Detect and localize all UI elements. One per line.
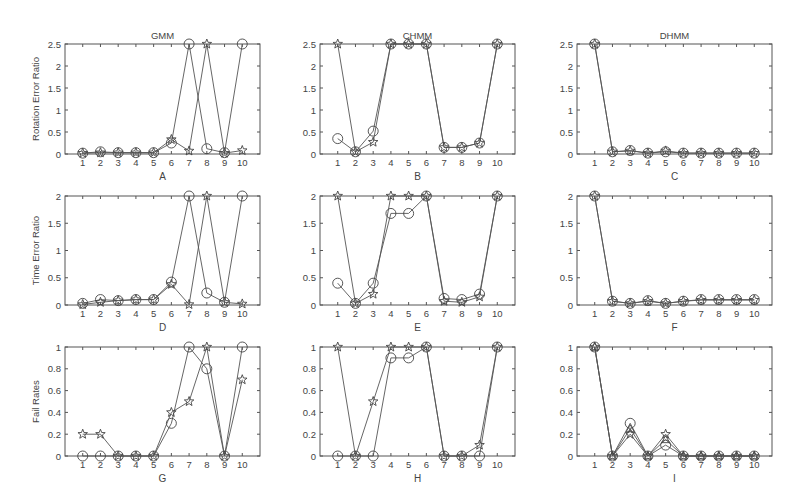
series-circle [333, 191, 503, 308]
x-tick-label: 8 [204, 459, 209, 470]
series-line [338, 196, 498, 303]
y-tick-label: 0.5 [303, 272, 316, 283]
x-tick-label: 4 [645, 308, 650, 319]
subplot-G: 00.20.40.60.8112345678910GFail Rates [30, 342, 260, 485]
series-line [595, 347, 755, 456]
x-tick-label: 10 [492, 459, 503, 470]
subplot-D: 00.511.5212345678910DTime Error Ratio [30, 191, 260, 334]
x-tick-label: 8 [716, 308, 721, 319]
axes-frame [320, 196, 515, 305]
x-tick-label: 3 [116, 157, 121, 168]
subplot-C: 00.511.522.512345678910DHMMC [560, 30, 772, 182]
y-tick-label: 1.5 [560, 218, 573, 229]
y-axis-label: Time Error Ratio [30, 216, 41, 285]
y-tick-label: 1.5 [48, 218, 61, 229]
star-marker-icon [78, 429, 88, 438]
x-tick-label: 7 [441, 157, 446, 168]
y-tick-label: 0 [311, 149, 316, 160]
y-tick-label: 2 [56, 191, 61, 202]
x-tick-label: 2 [610, 157, 615, 168]
y-tick-label: 1 [311, 342, 316, 353]
x-tick-label: 1 [80, 308, 85, 319]
x-tick-label: 10 [749, 157, 760, 168]
y-tick-label: 1.5 [560, 83, 573, 94]
series-circle [78, 342, 248, 461]
series-star [590, 342, 759, 460]
x-tick-label: 10 [237, 308, 248, 319]
series-star [590, 39, 759, 157]
subplot-I: 00.20.40.60.8112345678910I [560, 342, 772, 485]
axes-frame [320, 44, 515, 154]
x-tick-label: 4 [388, 459, 393, 470]
subplot-F: 00.511.5212345678910F [560, 191, 772, 334]
series-line [83, 44, 243, 153]
x-tick-label: 9 [734, 157, 739, 168]
y-tick-label: 0 [56, 149, 61, 160]
series-line [83, 44, 243, 153]
axes-frame [577, 347, 772, 456]
x-tick-label: 10 [492, 308, 503, 319]
y-tick-label: 0.5 [560, 127, 573, 138]
x-tick-label: 3 [628, 157, 633, 168]
series-line [595, 44, 755, 153]
y-tick-label: 0.2 [48, 429, 61, 440]
x-tick-label: 10 [237, 459, 248, 470]
series-line [338, 44, 498, 152]
chart-canvas: 00.511.522.512345678910GMMARotation Erro… [0, 0, 807, 499]
x-tick-label: 2 [98, 157, 103, 168]
x-tick-label: 1 [335, 157, 340, 168]
x-tick-label: 7 [698, 157, 703, 168]
x-tick-label: 2 [353, 157, 358, 168]
x-tick-label: 7 [698, 308, 703, 319]
series-star [590, 191, 759, 307]
x-tick-label: 7 [441, 308, 446, 319]
y-tick-label: 1.5 [303, 218, 316, 229]
series-line [338, 44, 498, 152]
x-tick-label: 3 [628, 459, 633, 470]
series-circle [590, 39, 760, 158]
series-line [83, 347, 243, 456]
y-tick-label: 0.5 [303, 127, 316, 138]
x-tick-label: 5 [406, 308, 411, 319]
axes-frame [65, 196, 260, 305]
x-tick-label: 1 [592, 308, 597, 319]
y-tick-label: 0.6 [303, 385, 316, 396]
series-line [338, 196, 498, 303]
x-tick-label: 9 [477, 308, 482, 319]
series-line [595, 196, 755, 303]
x-tick-label: 9 [222, 157, 227, 168]
subplot-H: 00.20.40.60.8112345678910H [303, 342, 515, 485]
x-tick-label: 6 [169, 459, 174, 470]
x-tick-label: 5 [406, 157, 411, 168]
x-tick-label: 10 [749, 308, 760, 319]
star-marker-icon [96, 429, 106, 438]
y-tick-label: 0 [568, 451, 573, 462]
x-tick-label: 3 [628, 308, 633, 319]
x-tick-label: 2 [98, 308, 103, 319]
series-circle [590, 191, 760, 308]
series-line [595, 347, 755, 456]
y-tick-label: 1 [568, 245, 573, 256]
series-circle [590, 342, 760, 461]
x-tick-label: 5 [151, 157, 156, 168]
subplot-E: 00.511.5212345678910E [303, 191, 515, 334]
x-tick-label: 10 [237, 157, 248, 168]
x-tick-label: 3 [116, 308, 121, 319]
x-tick-label: 1 [592, 459, 597, 470]
x-axis-label: E [414, 322, 421, 333]
figure-grid: 00.511.522.512345678910GMMARotation Erro… [0, 0, 807, 499]
y-tick-label: 0 [56, 300, 61, 311]
x-axis-label: I [673, 473, 676, 484]
x-tick-label: 9 [222, 308, 227, 319]
y-tick-label: 0 [56, 451, 61, 462]
series-triangle [591, 343, 759, 459]
x-tick-label: 10 [492, 157, 503, 168]
star-marker-icon [238, 375, 248, 384]
subplot-title: DHMM [660, 30, 690, 41]
x-tick-label: 1 [80, 157, 85, 168]
x-tick-label: 6 [681, 157, 686, 168]
x-tick-label: 7 [186, 308, 191, 319]
x-tick-label: 5 [406, 459, 411, 470]
y-tick-label: 2 [311, 191, 316, 202]
axes-frame [577, 44, 772, 154]
